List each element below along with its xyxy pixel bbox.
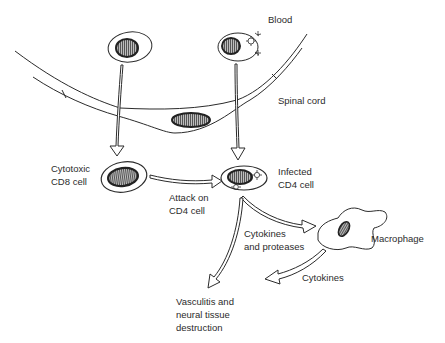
label-attack-line1: Attack on <box>169 192 209 205</box>
label-cd8-line2: CD8 cell <box>51 176 87 189</box>
infected-cd4-cell-cord <box>221 166 267 190</box>
label-cyto-prot-line1: Cytokines <box>244 228 286 241</box>
label-infected-line1: Infected <box>278 166 312 179</box>
label-cd8-line1: Cytotoxic <box>51 163 90 176</box>
infected-cd4-cell-blood <box>218 31 261 61</box>
arrow-attack <box>150 175 222 188</box>
label-cytokines: Cytokines <box>302 272 344 285</box>
arrow-cd4-migration <box>231 64 245 160</box>
label-cyto-prot-line2: and proteases <box>244 241 304 254</box>
label-macrophage: Macrophage <box>371 233 424 246</box>
cd8-cell-cord <box>99 158 150 196</box>
arrow-to-vasculitis <box>208 198 243 288</box>
cd8-cell-blood <box>106 29 154 65</box>
label-blood: Blood <box>268 14 292 27</box>
endothelial-nucleus <box>172 113 210 127</box>
label-vasc-line1: Vasculitis and <box>176 296 234 309</box>
label-infected-line2: CD4 cell <box>278 179 314 192</box>
label-vasc-line3: destruction <box>176 322 222 335</box>
arrow-cd8-migration <box>110 65 124 156</box>
diagram-canvas: Blood Spinal cord Cytotoxic CD8 cell Inf… <box>0 0 445 343</box>
label-spinal-cord: Spinal cord <box>278 95 326 108</box>
label-vasc-line2: neural tissue <box>176 309 230 322</box>
vessel-wall <box>15 34 307 133</box>
label-attack-line2: CD4 cell <box>169 205 205 218</box>
